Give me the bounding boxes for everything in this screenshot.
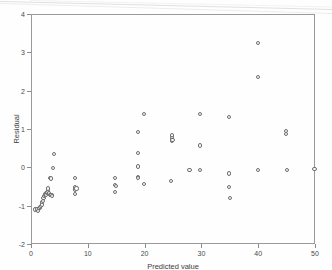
data-point: [136, 164, 140, 168]
x-axis-tick: [145, 244, 146, 248]
y-axis-tick: [27, 129, 31, 130]
data-point: [136, 151, 140, 155]
data-point: [136, 130, 140, 134]
data-point: [52, 152, 56, 156]
x-axis-title: Predicted value: [147, 262, 199, 270]
data-point: [113, 176, 117, 180]
data-point: [74, 186, 78, 190]
y-axis-tick: [27, 244, 31, 245]
x-axis-tick-label: 30: [197, 250, 205, 257]
y-axis-tick: [27, 52, 31, 53]
data-point: [187, 168, 191, 172]
data-point: [169, 179, 173, 183]
y-axis-tick-label: 0: [14, 164, 25, 171]
data-point: [113, 190, 117, 194]
data-point: [227, 115, 231, 119]
x-axis-tick-label: 0: [29, 250, 33, 257]
y-axis-tick: [27, 206, 31, 207]
x-axis-tick-label: 40: [254, 250, 262, 257]
residual-scatter-figure: Predicted value Residual 01020304050-2-1…: [0, 0, 332, 270]
x-axis-tick: [201, 244, 202, 248]
y-axis-tick: [27, 91, 31, 92]
y-axis-tick: [27, 167, 31, 168]
data-point: [285, 168, 289, 172]
data-point: [227, 171, 231, 175]
axis-frame: [31, 14, 315, 244]
y-axis-tick-label: -2: [14, 241, 25, 248]
y-axis-tick-label: 1: [14, 126, 25, 133]
data-point: [49, 176, 53, 180]
x-axis-tick: [31, 244, 32, 248]
data-point: [284, 132, 288, 136]
data-point: [312, 167, 316, 171]
data-point: [50, 194, 54, 198]
x-axis-tick-label: 50: [311, 250, 319, 257]
x-axis-tick: [315, 244, 316, 248]
y-axis-tick: [27, 14, 31, 15]
y-axis-tick-label: 2: [14, 87, 25, 94]
x-axis-tick-label: 10: [84, 250, 92, 257]
data-point: [198, 143, 202, 147]
x-axis-tick: [258, 244, 259, 248]
data-point: [51, 166, 55, 170]
data-point: [46, 186, 50, 190]
x-axis-tick: [88, 244, 89, 248]
y-axis-tick-label: 3: [14, 49, 25, 56]
x-axis-tick-label: 20: [141, 250, 149, 257]
y-axis-tick-label: 4: [14, 11, 25, 18]
y-axis-tick-label: -1: [14, 202, 25, 209]
data-point: [170, 138, 174, 142]
data-point: [256, 41, 260, 45]
